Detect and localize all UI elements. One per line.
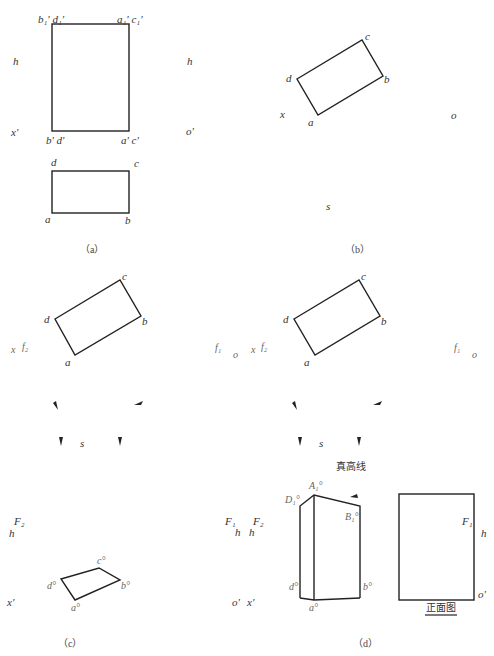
label-o-prime: o': [186, 126, 194, 137]
label-true-height-line: 真高线: [336, 462, 366, 472]
label-b-s: s: [326, 201, 330, 212]
label-front-F1: F₁: [462, 516, 473, 527]
label-b-b: b: [384, 74, 390, 85]
label-A1: A₁°: [309, 481, 323, 491]
label-c-c: c: [122, 271, 127, 282]
label-d-x: x: [251, 345, 255, 355]
label-plan-a: a: [45, 214, 51, 225]
arrow-mark-c-right: [134, 401, 143, 405]
label-d-persp: d°: [289, 582, 298, 592]
panel-a-elevation-rect: [52, 24, 129, 131]
label-c-x-prime: x': [7, 597, 14, 608]
arrow-mark-d-top: [350, 494, 358, 498]
label-D1: D₁°: [285, 495, 300, 505]
label-a1c1-prime: a₁' c₁': [117, 14, 143, 25]
label-d-b: b: [381, 316, 387, 327]
caption-d: （d）: [353, 639, 378, 649]
label-c-F2: F₂: [14, 516, 25, 527]
label-c-b: b: [142, 316, 148, 327]
label-c-x: x: [11, 345, 15, 355]
label-d-x-prime: x': [247, 597, 254, 608]
label-d-a: a: [304, 357, 310, 368]
arrow-mark-d-left: [292, 401, 297, 410]
label-d-h1: h: [235, 527, 241, 538]
arrow-mark-d-down2: [357, 437, 361, 446]
label-d-h2: h: [249, 527, 255, 538]
panel-d-plan-rect: [294, 280, 380, 355]
label-d-d: d: [283, 314, 289, 325]
label-d-f2: f₂: [261, 342, 267, 352]
arrow-mark-c-down1: [59, 437, 63, 446]
label-plan-d: d: [51, 157, 57, 168]
label-c-f1: f₁: [215, 343, 221, 353]
label-b-o: o: [451, 110, 457, 121]
label-front-h: h: [481, 528, 487, 539]
label-h-left: h: [13, 56, 19, 67]
panel-c-plan-rect: [55, 280, 141, 355]
caption-b: （b）: [345, 245, 370, 255]
label-d-o: o: [472, 350, 477, 360]
label-c-s: s: [80, 438, 84, 449]
label-d-F1-left: F₁: [225, 516, 236, 527]
label-c-h: h: [9, 528, 15, 539]
label-b-d-prime: b' d': [46, 135, 64, 146]
label-B1: B₁°: [345, 512, 359, 522]
label-c-f2: f₂: [22, 342, 28, 352]
label-c-o: o: [233, 350, 238, 360]
label-a-c-prime: a' c': [121, 135, 139, 146]
panel-d-prism-base: [300, 598, 360, 600]
label-b1d1-prime: b₁' d₁': [38, 14, 64, 25]
label-d-s: s: [319, 438, 323, 449]
panel-a-plan-rect: [52, 171, 129, 213]
panel-b-plan-rect: [297, 40, 383, 115]
sight-arrows: [53, 401, 382, 498]
caption-c: （c）: [58, 639, 82, 649]
label-plan-c: c: [134, 158, 139, 169]
label-c-a-persp: a°: [71, 603, 80, 613]
label-a-persp: a°: [309, 603, 318, 613]
label-c-b-persp: b°: [121, 581, 130, 591]
label-c-c-persp: c°: [97, 556, 105, 566]
label-front-o-prime: o': [478, 589, 486, 600]
label-b-a: a: [308, 117, 314, 128]
label-h-right: h: [187, 56, 193, 67]
label-b-x: x: [280, 109, 285, 120]
arrow-mark-d-down1: [298, 437, 302, 446]
panel-d-front-view-rect: [399, 494, 474, 600]
label-b-d: d: [286, 73, 292, 84]
label-b-persp: b°: [363, 582, 372, 592]
label-c-d: d: [44, 314, 50, 325]
caption-a: （a）: [80, 245, 104, 255]
label-b-c: c: [365, 31, 370, 42]
label-plan-b: b: [125, 215, 131, 226]
diagram-canvas: [0, 0, 494, 656]
label-c-a: a: [65, 357, 71, 368]
label-d-f1: f₁: [454, 343, 460, 353]
arrow-mark-c-down2: [118, 437, 122, 446]
label-d-o-prime: o': [232, 597, 240, 608]
label-c-d-persp: d°: [47, 581, 56, 591]
label-front-view: 正面图: [426, 603, 456, 613]
label-d-c: c: [361, 271, 366, 282]
arrow-mark-d-right: [373, 401, 382, 405]
arrow-mark-c-left: [53, 401, 58, 410]
label-x-prime: x': [11, 127, 18, 138]
panel-c-perspective-quad: [61, 568, 120, 600]
